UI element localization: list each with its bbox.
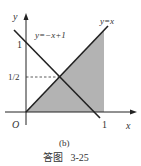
x-axis-label: x [125, 120, 131, 131]
y-tick-1-label: 1 [17, 39, 22, 50]
line2-label: y=−x+1 [34, 30, 66, 40]
diagram-canvas: y x O 1 1 1/2 y=x y=−x+1 (b) 答图 3-25 [0, 0, 141, 166]
origin-label: O [12, 119, 19, 130]
y-axis-label: y [12, 11, 18, 22]
figure-caption: 答图 3-25 [43, 151, 89, 163]
x-tick-1-label: 1 [102, 119, 107, 130]
y-tick-half-label: 1/2 [8, 72, 20, 82]
subfigure-label: (b) [59, 138, 70, 148]
y-axis-arrow-icon [24, 13, 29, 20]
x-axis-arrow-icon [130, 110, 137, 115]
line1-label: y=x [99, 16, 114, 26]
